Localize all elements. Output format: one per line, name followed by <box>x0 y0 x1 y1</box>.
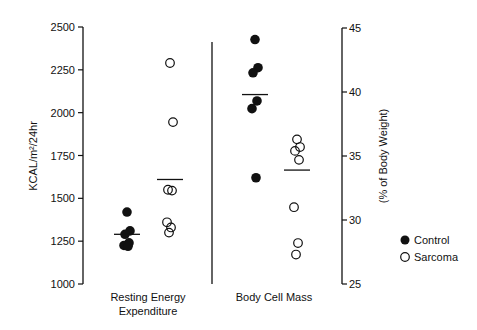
left-axis-label: KCAL/m²/24hr <box>27 121 39 191</box>
y-tick-label: 1750 <box>51 150 75 162</box>
y-tick-label: 1000 <box>51 278 75 290</box>
control-point <box>250 35 260 45</box>
chart: 1000125015001750200022502500 2530354045 … <box>0 0 477 330</box>
right-axis-label: (% of Body Weight) <box>377 109 389 204</box>
sarcoma-point <box>294 239 303 248</box>
control-point <box>123 242 133 252</box>
x-label-ree-line1: Resting Energy <box>110 291 186 303</box>
y2-tick-label: 40 <box>349 86 361 98</box>
legend-sarcoma-marker <box>401 253 410 262</box>
sarcoma-point <box>169 118 178 127</box>
y2-tick-label: 25 <box>349 278 361 290</box>
control-point <box>247 104 257 114</box>
control-point <box>122 207 132 217</box>
left-axis: 1000125015001750200022502500 <box>51 21 83 290</box>
y2-tick-label: 30 <box>349 214 361 226</box>
control-point <box>248 68 258 78</box>
y-tick-label: 2250 <box>51 64 75 76</box>
sarcoma-point <box>295 156 304 165</box>
sarcoma-point <box>166 59 175 68</box>
legend-control-marker <box>401 236 410 245</box>
sarcoma-point <box>290 203 299 212</box>
x-label-bcm: Body Cell Mass <box>236 291 313 303</box>
y-tick-label: 1500 <box>51 192 75 204</box>
legend: Control Sarcoma <box>401 234 459 263</box>
x-label-ree-line2: Expenditure <box>119 305 178 317</box>
y-tick-label: 1250 <box>51 235 75 247</box>
legend-sarcoma-label: Sarcoma <box>414 251 459 263</box>
y2-tick-label: 35 <box>349 150 361 162</box>
y-tick-label: 2000 <box>51 107 75 119</box>
y2-tick-label: 45 <box>349 22 361 34</box>
sarcoma-point <box>165 228 174 237</box>
control-point <box>251 173 261 183</box>
sarcoma-point <box>292 250 301 259</box>
legend-control-label: Control <box>414 234 449 246</box>
y-tick-label: 2500 <box>51 21 75 33</box>
right-axis: 2530354045 <box>342 22 361 290</box>
